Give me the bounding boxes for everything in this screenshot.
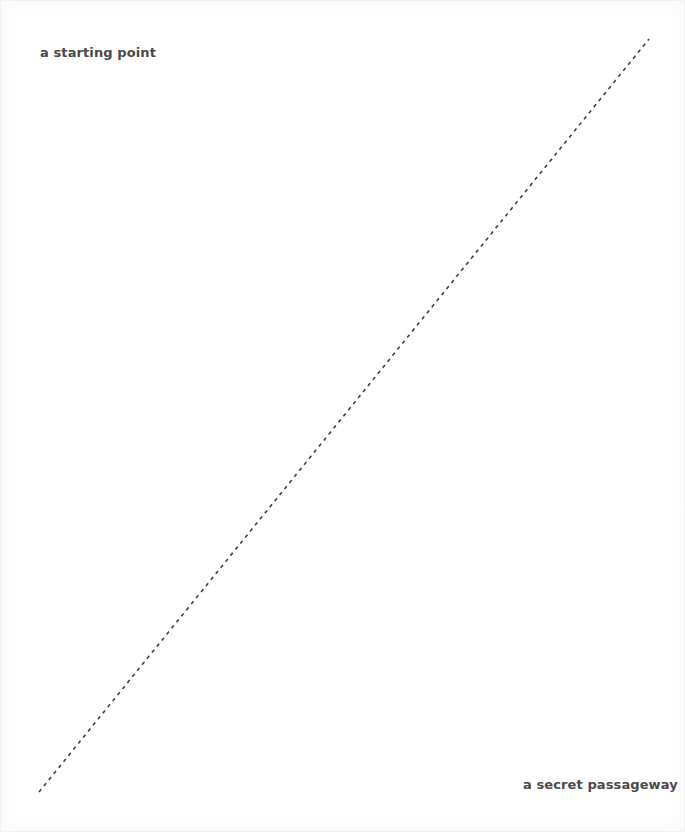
dashed-path-layer [1,1,685,832]
dashed-diagonal-line [39,39,649,792]
diagram-canvas: a starting point a secret passageway [0,0,685,832]
label-starting-point: a starting point [40,45,156,60]
label-secret-passageway: a secret passageway [523,777,678,792]
